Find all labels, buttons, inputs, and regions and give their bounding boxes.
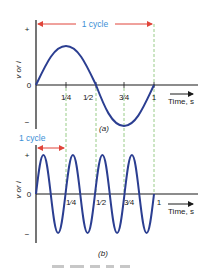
- y-axis-label-a: v or i: [14, 61, 23, 79]
- panel-label-a: (a): [99, 124, 109, 133]
- tick-three-quarter-a: 3⁄4: [119, 93, 130, 102]
- x-axis-label-a: Time, s: [168, 97, 194, 106]
- panel-b: 1 cycle + 0 − v or i 1⁄4 1⁄2 3⁄4 1 Time,…: [14, 133, 198, 258]
- sine-wave-diagram: 1 cycle + 0 − v or i 1⁄4 1⁄2 3⁄4 1 Time,…: [0, 0, 209, 268]
- panel-label-b: (b): [98, 249, 108, 258]
- tick-quarter-b: 1⁄4: [66, 198, 77, 207]
- tick-three-quarter-b: 3⁄4: [124, 198, 135, 207]
- cycle-label-b: 1 cycle: [19, 133, 46, 143]
- y-plus-b: +: [25, 151, 30, 160]
- y-plus-a: +: [25, 25, 30, 34]
- panel-a: 1 cycle + 0 − v or i 1⁄4 1⁄2 3⁄4 1 Time,…: [14, 19, 198, 134]
- y-zero-a: 0: [27, 81, 32, 90]
- y-axis-label-b: v or i: [14, 181, 23, 199]
- tick-half-a: 1⁄2: [83, 93, 94, 102]
- x-axis-label-b: Time, s: [168, 207, 194, 216]
- tick-quarter-a: 1⁄4: [61, 93, 72, 102]
- tick-one-a: 1: [152, 93, 157, 102]
- y-minus-b: −: [25, 230, 30, 239]
- cycle-label-a: 1 cycle: [82, 19, 109, 29]
- y-minus-a: −: [25, 118, 30, 127]
- y-zero-b: 0: [27, 190, 32, 199]
- sine-wave-a: [36, 46, 154, 126]
- tick-half-b: 1⁄2: [96, 198, 107, 207]
- tick-one-b: 1: [157, 198, 162, 207]
